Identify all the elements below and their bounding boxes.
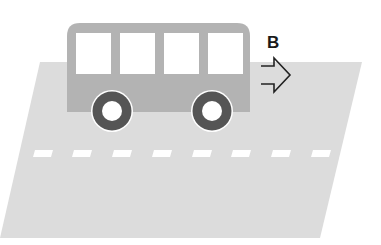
- bus-wheel-front-left: [91, 90, 133, 132]
- bus-window-2: [120, 33, 155, 74]
- bus-window-3: [164, 33, 199, 74]
- bus-window-4: [208, 33, 243, 74]
- direction-label: B: [267, 33, 279, 53]
- bus-window-1: [76, 33, 111, 74]
- bus-road-diagram: [0, 0, 381, 245]
- bus-wheel-rear: [191, 90, 233, 132]
